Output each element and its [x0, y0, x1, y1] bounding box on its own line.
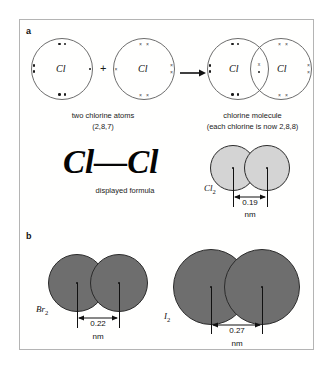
electron-dot	[33, 70, 36, 73]
electron-cross: ×	[169, 70, 174, 75]
chemistry-figure: a Cl + Cl × × × × × × × Cl Cl × × × × × …	[0, 0, 333, 368]
electron-dot	[33, 64, 36, 67]
panel-label-a: a	[26, 27, 31, 36]
product-atom-right-symbol: Cl	[277, 64, 286, 74]
displayed-formula-label: displayed formula	[65, 186, 185, 196]
i2-bond-length-unit: nm	[211, 340, 263, 348]
cl2-label-sub: 2	[213, 188, 216, 195]
electron-cross: ×	[277, 93, 282, 98]
electron-dot	[231, 93, 234, 96]
panel-label-b: b	[26, 232, 32, 241]
electron-cross: ×	[306, 63, 311, 68]
arrow-right-icon	[180, 68, 206, 78]
electron-cross: ×	[277, 42, 282, 47]
br2-bond-length-unit: nm	[73, 333, 123, 341]
electron-dot	[58, 43, 61, 46]
br2-label: Br2	[36, 305, 48, 316]
electron-cross: ×	[145, 93, 150, 98]
electron-dot	[237, 93, 240, 96]
electron-dot	[64, 43, 67, 46]
reactant-atom-2-symbol: Cl	[138, 64, 147, 74]
caption-reactants-line1: two chlorine atoms	[38, 111, 168, 121]
cl2-bond-length-unit: nm	[225, 211, 275, 219]
plus-sign: +	[100, 63, 106, 74]
caption-product-line2: (each chlorine is now 2,8,8)	[185, 122, 320, 132]
i2-bond-length-value: 0.27	[211, 327, 263, 335]
electron-dot	[64, 93, 67, 96]
electron-cross: ×	[138, 42, 143, 47]
shared-electron-cross: x	[257, 62, 262, 67]
electron-dot	[209, 64, 212, 67]
br2-label-text: Br	[36, 304, 45, 314]
br2-bond-length-value: 0.22	[73, 320, 123, 328]
cl2-bond-length-value: 0.19	[225, 199, 275, 207]
cl2-label-text: Cl	[204, 183, 213, 193]
electron-dot	[58, 93, 61, 96]
reactant-atom-1-symbol: Cl	[56, 64, 65, 74]
product-atom-left-symbol: Cl	[229, 64, 238, 74]
electron-dot	[209, 70, 212, 73]
caption-product-line1: chlorine molecule	[185, 111, 320, 121]
reaction-arrow	[180, 64, 206, 74]
cl2-label: Cl2	[204, 184, 216, 195]
electron-cross: ×	[284, 93, 289, 98]
electron-cross: ×	[306, 70, 311, 75]
i2-label: I2	[164, 312, 170, 323]
electron-cross: ×	[145, 42, 150, 47]
br2-label-sub: 2	[45, 309, 48, 316]
electron-cross: ×	[284, 42, 289, 47]
i2-label-sub: 2	[167, 316, 170, 323]
caption-reactants-line2: (2,8,7)	[38, 122, 168, 132]
electron-cross: ×	[114, 67, 119, 72]
shared-electron-dot	[258, 71, 261, 74]
displayed-formula: Cl—Cl	[63, 146, 158, 179]
electron-dot	[231, 43, 234, 46]
electron-cross: ×	[138, 93, 143, 98]
electron-dot	[89, 68, 92, 71]
electron-cross: ×	[169, 63, 174, 68]
electron-dot	[237, 43, 240, 46]
